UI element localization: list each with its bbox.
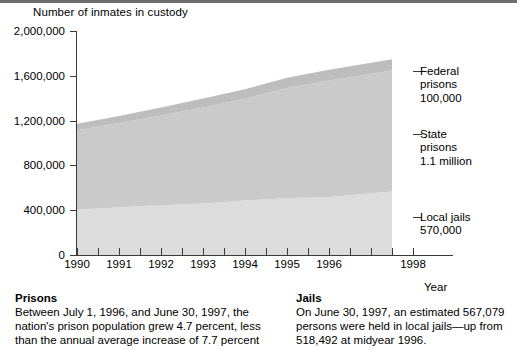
plot-area bbox=[77, 31, 413, 255]
legend-item-line: Local jails bbox=[420, 211, 471, 224]
legend-item-line: 100,000 bbox=[420, 92, 462, 105]
x-tick-mark bbox=[413, 248, 414, 256]
x-tick-label: 1993 bbox=[190, 258, 216, 270]
legend-item-line: Federal bbox=[420, 65, 462, 78]
x-tick-mark-minor bbox=[182, 248, 183, 256]
area-band-state-prisons bbox=[77, 71, 392, 210]
legend-item-line: 570,000 bbox=[420, 224, 471, 237]
chart-figure: Number of inmates in custody 2,000,0001,… bbox=[0, 0, 517, 350]
y-tick-label: 2,000,000 bbox=[14, 25, 65, 37]
y-tick-mark bbox=[70, 76, 77, 77]
x-tick-label: 1991 bbox=[106, 258, 132, 270]
scan-artifact-bar bbox=[0, 0, 517, 3]
y-axis-line bbox=[76, 31, 77, 256]
x-tick-mark-minor bbox=[308, 248, 309, 256]
y-tick-mark bbox=[70, 31, 77, 32]
x-tick-mark-minor bbox=[266, 248, 267, 256]
note-jails-body: On June 30, 1997, an estimated 567,079 p… bbox=[296, 306, 504, 346]
y-tick-mark bbox=[70, 210, 77, 211]
chart-title: Number of inmates in custody bbox=[33, 6, 188, 18]
legend-item-line: prisons bbox=[420, 141, 472, 154]
x-tick-mark bbox=[287, 248, 288, 256]
x-tick-label: 1994 bbox=[232, 258, 258, 270]
x-axis-line bbox=[76, 255, 453, 256]
x-tick-mark bbox=[203, 248, 204, 256]
x-tick-mark bbox=[329, 248, 330, 256]
y-tick-label: 400,000 bbox=[23, 204, 65, 216]
legend-item-line: 1.1 million bbox=[420, 155, 472, 168]
stacked-area-plot bbox=[77, 31, 413, 255]
x-tick-mark-minor bbox=[224, 248, 225, 256]
x-tick-mark bbox=[77, 248, 78, 256]
x-tick-label: 1990 bbox=[64, 258, 90, 270]
x-tick-mark-minor bbox=[140, 248, 141, 256]
y-tick-label: 1,600,000 bbox=[14, 70, 65, 82]
note-prisons-body: Between July 1, 1996, and June 30, 1997,… bbox=[15, 306, 261, 346]
x-tick-mark bbox=[245, 248, 246, 256]
x-tick-mark-minor bbox=[350, 248, 351, 256]
note-prisons-heading: Prisons bbox=[15, 291, 265, 305]
legend-item: Local jails570,000 bbox=[420, 211, 471, 238]
y-tick-label: 1,200,000 bbox=[14, 115, 65, 127]
y-tick-mark bbox=[70, 165, 77, 166]
legend-item-line: State bbox=[420, 128, 472, 141]
x-tick-mark bbox=[161, 248, 162, 256]
note-jails-heading: Jails bbox=[296, 291, 516, 305]
x-tick-mark bbox=[119, 248, 120, 256]
x-tick-mark-minor bbox=[392, 248, 393, 256]
note-prisons: Prisons Between July 1, 1996, and June 3… bbox=[15, 291, 265, 347]
note-jails: Jails On June 30, 1997, an estimated 567… bbox=[296, 291, 516, 347]
x-tick-label: 1992 bbox=[148, 258, 174, 270]
x-tick-label: 1995 bbox=[274, 258, 300, 270]
x-tick-mark-minor bbox=[98, 248, 99, 256]
legend-item-line: prisons bbox=[420, 78, 462, 91]
y-tick-label: 800,000 bbox=[23, 159, 65, 171]
x-tick-mark-minor bbox=[371, 248, 372, 256]
x-tick-label: 1998 bbox=[400, 258, 426, 270]
y-tick-mark bbox=[70, 255, 77, 256]
legend-item: Stateprisons1.1 million bbox=[420, 128, 472, 168]
legend-item: Federalprisons100,000 bbox=[420, 65, 462, 105]
y-tick-mark bbox=[70, 121, 77, 122]
x-tick-label: 1996 bbox=[316, 258, 342, 270]
